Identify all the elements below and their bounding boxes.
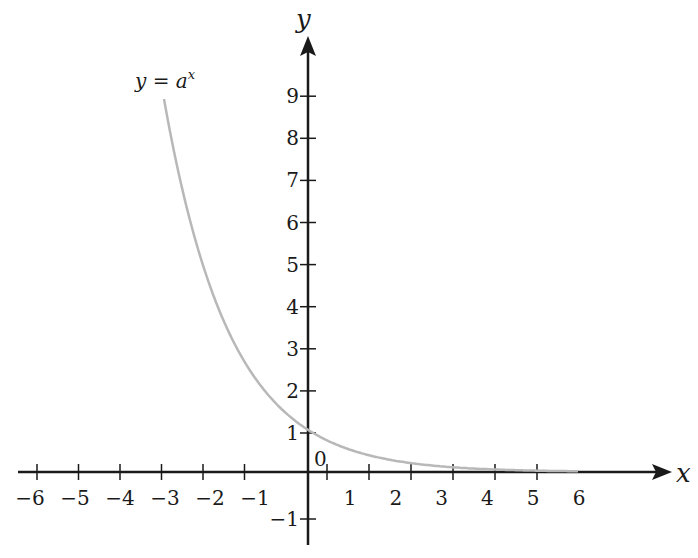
x-tick-label: −6	[15, 486, 44, 510]
curve-y-equals-a-to-x	[164, 99, 578, 471]
x-tick-label: −2	[195, 486, 224, 510]
x-tick-label: 3	[435, 486, 448, 510]
x-axis-label: x	[676, 458, 691, 488]
y-tick-label: 2	[286, 379, 299, 403]
y-tick-label: 9	[286, 84, 299, 108]
x-tick-label: 2	[389, 486, 402, 510]
y-tick-label: 4	[286, 295, 299, 319]
x-tick-label: −4	[105, 486, 134, 510]
y-tick-label: 5	[286, 253, 299, 277]
y-tick-label: 3	[286, 337, 299, 361]
y-tick-label: 8	[286, 126, 299, 150]
x-tick-label: 4	[481, 486, 494, 510]
y-axis-label: y	[295, 4, 311, 34]
y-tick-label: −1	[270, 507, 299, 531]
exponential-graph: −6−5−4−3−2−1123456 −1123456789 0 x y y =…	[0, 0, 698, 558]
x-tick-label: −3	[150, 486, 179, 510]
x-tick-label: 6	[573, 486, 586, 510]
x-tick-label: 5	[527, 486, 540, 510]
origin-label: 0	[314, 447, 327, 471]
x-tick-label: −5	[60, 486, 89, 510]
x-tick-label: 1	[344, 486, 357, 510]
y-tick-label: 7	[286, 168, 299, 192]
y-tick-label: 6	[286, 211, 299, 235]
y-tick-label: 1	[286, 421, 299, 445]
x-tick-label: −1	[240, 486, 269, 510]
curve-equation-label: y = ax	[134, 67, 196, 93]
